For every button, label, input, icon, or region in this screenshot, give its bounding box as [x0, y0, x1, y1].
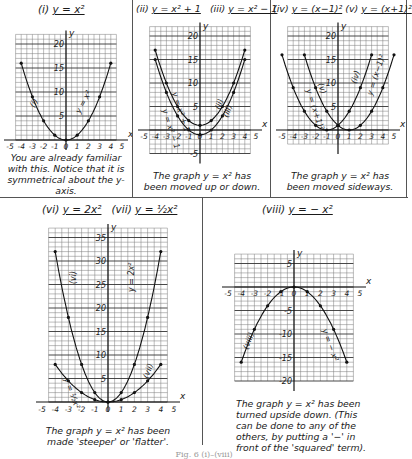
- divider-horizontal: [0, 197, 408, 198]
- svg-text:35: 35: [96, 234, 106, 243]
- svg-text:y = 2x²: y = 2x²: [127, 262, 136, 293]
- divider-vertical-1: [132, 0, 133, 197]
- svg-text:x: x: [179, 391, 186, 401]
- svg-text:20: 20: [96, 304, 106, 313]
- svg-text:4: 4: [158, 405, 163, 414]
- svg-text:-5: -5: [140, 132, 148, 141]
- svg-text:3: 3: [331, 289, 336, 298]
- svg-text:(vi): (vi): [69, 271, 78, 284]
- svg-text:4: 4: [380, 132, 385, 141]
- panel-ii-iii-caption: The graph y = x² has been moved up or do…: [140, 170, 264, 192]
- panel-ii-iii-title: (ii) y = x² + 1 (iii) y = x² − 1: [136, 3, 277, 14]
- svg-text:30: 30: [96, 257, 106, 266]
- svg-text:2: 2: [220, 132, 225, 141]
- svg-text:10: 10: [326, 79, 336, 88]
- svg-text:1: 1: [75, 142, 80, 151]
- graph-i: xy-5-4-3-2-10123455101520(i)y = x²: [0, 18, 132, 158]
- panel-iv-v-title: (iv) y = (x−1)² (v) y = (x+1)²: [273, 3, 412, 14]
- panel-vii-number: (vii): [111, 203, 131, 215]
- panel-i-number: (i): [38, 3, 49, 15]
- panel-iv-v-caption: The graph y = x² has been moved sideways…: [278, 170, 402, 192]
- svg-text:-4: -4: [151, 132, 159, 141]
- svg-text:-5: -5: [278, 132, 286, 141]
- svg-text:1: 1: [209, 132, 214, 141]
- svg-text:10: 10: [188, 79, 198, 88]
- svg-text:20: 20: [188, 32, 198, 41]
- svg-text:15: 15: [188, 56, 198, 65]
- figure-caption: Fig. 6 (i)–(viii): [0, 450, 408, 459]
- panel-vi-vii-caption: The graph y = x² has been made 'steeper'…: [40, 425, 176, 447]
- panel-vi-vii-title: (vi) y = 2x² (vii) y = ½x²: [42, 203, 177, 215]
- panel-v-number: (v): [345, 3, 358, 14]
- svg-text:-10: -10: [279, 330, 292, 339]
- panel-vi-equation: y = 2x²: [63, 203, 102, 215]
- svg-text:-2: -2: [312, 132, 320, 141]
- divider-vertical-2: [270, 0, 271, 197]
- svg-text:x: x: [261, 119, 268, 129]
- svg-text:y: y: [202, 21, 209, 31]
- svg-text:3: 3: [145, 405, 150, 414]
- panel-viii-number: (viii): [262, 203, 285, 215]
- svg-text:(vii): (vii): [141, 362, 155, 380]
- svg-text:x: x: [399, 119, 406, 129]
- svg-text:y = x²: y = x²: [73, 88, 93, 115]
- svg-text:-5: -5: [284, 307, 292, 316]
- panel-iv-equation: y = (x−1)²: [292, 3, 342, 14]
- svg-text:-5: -5: [190, 150, 198, 159]
- svg-text:-3: -3: [251, 289, 259, 298]
- svg-text:20: 20: [54, 40, 64, 49]
- panel-viii-equation: y = − x²: [289, 203, 333, 215]
- svg-text:15: 15: [326, 56, 336, 65]
- svg-text:-1: -1: [185, 132, 192, 141]
- svg-text:5: 5: [254, 132, 259, 141]
- svg-text:x: x: [127, 129, 132, 139]
- svg-text:-1: -1: [91, 405, 98, 414]
- panel-iii-equation: y = x² − 1: [228, 3, 277, 14]
- svg-text:0: 0: [64, 142, 69, 151]
- svg-text:-5: -5: [38, 405, 46, 414]
- svg-text:4: 4: [108, 142, 113, 151]
- svg-text:(iv): (iv): [349, 69, 362, 84]
- panel-viii-caption: The graph y = x² has been turned upside …: [236, 398, 372, 453]
- svg-text:-2: -2: [264, 289, 272, 298]
- svg-text:y: y: [110, 222, 117, 232]
- svg-text:2: 2: [318, 289, 323, 298]
- graph-viii: xy-5-4-3-2-10123455-5-10-15-20(viii)y = …: [202, 222, 408, 402]
- svg-text:-3: -3: [301, 132, 309, 141]
- svg-text:-1: -1: [51, 142, 58, 151]
- svg-text:2: 2: [132, 405, 137, 414]
- panel-ii-number: (ii): [136, 3, 149, 14]
- svg-text:0: 0: [336, 132, 341, 141]
- panel-vii-equation: y = ½x²: [135, 203, 177, 215]
- svg-text:-15: -15: [279, 354, 292, 363]
- panel-v-equation: y = (x+1)²: [361, 3, 411, 14]
- svg-text:-1: -1: [323, 132, 330, 141]
- svg-text:4: 4: [242, 132, 247, 141]
- svg-text:1: 1: [119, 405, 124, 414]
- svg-text:5: 5: [101, 375, 106, 384]
- graph-ii-iii: xy-5-4-3-2-1012345-55101520y = x² + 1y =…: [134, 18, 270, 178]
- svg-text:-5: -5: [224, 289, 232, 298]
- svg-text:5: 5: [358, 289, 363, 298]
- svg-text:15: 15: [96, 328, 106, 337]
- svg-text:-5: -5: [6, 142, 14, 151]
- panel-i-title: (i) y = x²: [38, 3, 85, 15]
- svg-text:5: 5: [287, 260, 292, 269]
- svg-text:20: 20: [326, 32, 336, 41]
- svg-text:3: 3: [369, 132, 374, 141]
- svg-text:x: x: [365, 276, 372, 286]
- svg-text:-4: -4: [289, 132, 297, 141]
- svg-text:-20: -20: [279, 377, 292, 386]
- svg-text:-3: -3: [29, 142, 37, 151]
- svg-text:3: 3: [231, 132, 236, 141]
- svg-text:-3: -3: [65, 405, 73, 414]
- svg-text:y: y: [68, 28, 75, 38]
- svg-text:15: 15: [54, 64, 64, 73]
- svg-text:2: 2: [358, 132, 363, 141]
- svg-text:10: 10: [96, 351, 106, 360]
- graph-vi-vii: xy-5-4-3-2-10123455101520253035(vi)y = 2…: [0, 222, 200, 422]
- panel-i-caption: You are already familiar with this. Noti…: [2, 152, 130, 196]
- svg-text:5: 5: [331, 103, 336, 112]
- svg-text:25: 25: [96, 281, 106, 290]
- svg-text:0: 0: [106, 405, 111, 414]
